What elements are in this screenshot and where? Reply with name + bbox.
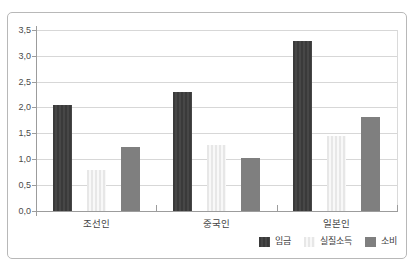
x-category-label: 일본인 — [297, 218, 377, 229]
x-axis-line — [36, 211, 398, 212]
y-tick-label: 3,5 — [10, 25, 31, 35]
plot-area: 0,00,51,01,52,02,53,03,5조선인중국인일본인 — [8, 13, 406, 258]
gridline — [36, 82, 397, 83]
y-tick-mark — [32, 211, 36, 212]
y-axis-line — [36, 26, 37, 216]
y-tick-mark — [32, 56, 36, 57]
gridline — [36, 30, 397, 31]
bar-실질소득-조선인 — [87, 170, 106, 211]
y-tick-label: 1,0 — [10, 154, 31, 164]
bar-임금-중국인 — [173, 92, 192, 211]
x-tick-mark — [156, 205, 157, 211]
y-tick-mark — [32, 185, 36, 186]
y-tick-label: 0,5 — [10, 180, 31, 190]
y-tick-mark — [32, 107, 36, 108]
y-tick-mark — [32, 159, 36, 160]
legend-swatch-icon — [365, 237, 376, 247]
bar-임금-조선인 — [53, 105, 72, 211]
x-category-label: 조선인 — [56, 218, 136, 229]
x-tick-mark — [277, 205, 278, 211]
y-tick-mark — [32, 82, 36, 83]
y-tick-label: 1,5 — [10, 128, 31, 138]
legend-label: 임금 — [275, 236, 291, 247]
plot-right-edge — [397, 30, 398, 211]
y-tick-mark — [32, 30, 36, 31]
y-tick-label: 2,5 — [10, 77, 31, 87]
legend-label: 소비 — [381, 236, 397, 247]
y-tick-label: 2,0 — [10, 102, 31, 112]
x-category-label: 중국인 — [177, 218, 257, 229]
gridline — [36, 56, 397, 57]
y-tick-mark — [32, 133, 36, 134]
bar-실질소득-중국인 — [207, 145, 226, 211]
bar-소비-중국인 — [241, 158, 260, 211]
legend-item-소비: 소비 — [365, 236, 397, 247]
chart-figure: 0,00,51,01,52,02,53,03,5조선인중국인일본인 임금실질소득… — [7, 12, 407, 259]
legend-label: 실질소득 — [320, 236, 352, 247]
legend-item-임금: 임금 — [259, 236, 291, 247]
bar-실질소득-일본인 — [327, 136, 346, 211]
gridline — [36, 107, 397, 108]
legend-swatch-icon — [259, 237, 270, 247]
bar-소비-조선인 — [121, 147, 140, 211]
legend-swatch-icon — [304, 237, 315, 247]
gridline — [36, 133, 397, 134]
legend: 임금실질소득소비 — [259, 236, 397, 247]
legend-item-실질소득: 실질소득 — [304, 236, 352, 247]
bar-임금-일본인 — [293, 41, 312, 211]
y-tick-label: 3,0 — [10, 51, 31, 61]
y-tick-label: 0,0 — [10, 206, 31, 216]
bar-소비-일본인 — [361, 117, 380, 211]
x-tick-mark — [397, 205, 398, 211]
